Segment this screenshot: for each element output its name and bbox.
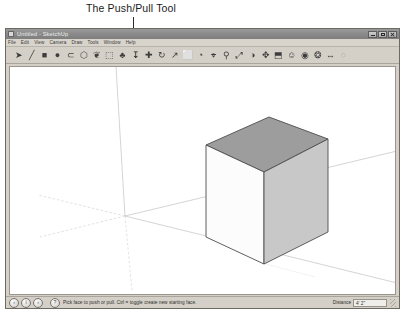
viewport-canvas [10, 67, 396, 291]
measurement-label: Distance [333, 300, 351, 305]
blue-axis-negative [125, 216, 132, 291]
paint-bucket-tool[interactable]: ♣ [116, 48, 129, 62]
blue-axis-line [116, 67, 125, 216]
rectangle-tool-icon: ■ [42, 51, 47, 60]
polygon-tool-icon: ⬡ [80, 51, 88, 60]
orbit-tool-icon: ◑ [250, 51, 255, 60]
freehand-tool[interactable]: ❦ [90, 48, 103, 62]
rectangle-tool[interactable]: ■ [38, 48, 51, 62]
info-icon[interactable]: i [21, 298, 31, 308]
window-title: Untitled - SketchUp [17, 31, 367, 37]
zoom-tool-icon: ⚲ [223, 51, 230, 60]
sketchup-window: Untitled - SketchUp File Edit View Camer… [5, 28, 400, 309]
zoom-tool[interactable]: ⚲ [220, 48, 233, 62]
text-tool-icon: ○ [341, 51, 346, 60]
follow-me-tool[interactable]: ↗ [168, 48, 181, 62]
question-mark-icon[interactable]: ? [50, 298, 60, 308]
annotation-label: The Push/Pull Tool [86, 2, 176, 14]
menu-item-view[interactable]: View [34, 40, 44, 45]
line-tool-icon: ╱ [29, 51, 34, 60]
menu-item-tools[interactable]: Tools [88, 40, 99, 45]
select-tool[interactable]: ➤ [12, 48, 25, 62]
section-plane-tool-icon: ⬒ [274, 51, 283, 60]
model-viewport[interactable] [9, 66, 396, 295]
polygon-tool[interactable]: ⬡ [77, 48, 90, 62]
move-tool-icon: ✚ [145, 51, 153, 60]
question-mark-glyph: ? [51, 299, 59, 306]
zoom-extents-tool-icon: ⤢ [236, 51, 243, 60]
pan-tool[interactable]: ✥ [259, 48, 272, 62]
dimension-tool[interactable]: ↔ [324, 48, 337, 62]
move-tool[interactable]: ✚ [142, 48, 155, 62]
drawing-area-wrapper [6, 64, 399, 296]
eraser-tool[interactable]: ⬚ [103, 48, 116, 62]
tape-measure-tool-icon: ⌖ [211, 51, 216, 60]
sketchup-app-icon [8, 31, 14, 37]
resize-grip[interactable] [390, 299, 396, 307]
forward-arrow-glyph: › [34, 299, 42, 306]
line-tool[interactable]: ╱ [25, 48, 38, 62]
position-camera-tool[interactable]: ❂ [311, 48, 324, 62]
main-toolbar: ➤ ╱ ■ ● ⊂ ⬡ ❦ ⬚ ♣ ↧ ✚ ↻ ↗ ⬜ ◔ ⌖ ⚲ ⤢ ◑ ✥ … [6, 47, 399, 64]
title-bar[interactable]: Untitled - SketchUp [6, 29, 399, 39]
minimize-button[interactable] [368, 31, 377, 38]
arc-tool[interactable]: ⊂ [64, 48, 77, 62]
position-camera-tool-icon: ❂ [314, 51, 322, 60]
select-tool-icon: ➤ [15, 51, 23, 60]
walk-tool[interactable]: ☺ [285, 48, 298, 62]
forward-arrow-icon[interactable]: › [33, 298, 43, 308]
text-tool[interactable]: ○ [337, 48, 350, 62]
back-arrow-glyph: ‹ [10, 299, 18, 306]
menu-item-file[interactable]: File [8, 40, 16, 45]
orbit-tool[interactable]: ◑ [246, 48, 259, 62]
look-around-tool[interactable]: ◉ [298, 48, 311, 62]
circle-tool[interactable]: ● [51, 48, 64, 62]
walk-tool-icon: ☺ [287, 51, 296, 60]
look-around-tool-icon: ◉ [301, 51, 309, 60]
circle-tool-icon: ● [55, 51, 60, 60]
offset-tool[interactable]: ◔ [194, 48, 207, 62]
rotate-tool[interactable]: ↻ [155, 48, 168, 62]
follow-me-tool-icon: ↗ [171, 51, 179, 60]
back-arrow-icon[interactable]: ‹ [9, 298, 19, 308]
arc-tool-icon: ⊂ [67, 51, 75, 60]
measurement-box: Distance 4' 2" [333, 299, 387, 307]
menu-item-window[interactable]: Window [104, 40, 121, 45]
eraser-tool-icon: ⬚ [105, 51, 114, 60]
close-button[interactable] [388, 31, 397, 38]
menu-item-draw[interactable]: Draw [71, 40, 82, 45]
red-axis-negative [38, 195, 125, 216]
section-plane-tool[interactable]: ⬒ [272, 48, 285, 62]
rotate-tool-icon: ↻ [158, 51, 166, 60]
scale-tool-icon: ⬜ [182, 51, 193, 60]
freehand-tool-icon: ❦ [93, 51, 101, 60]
menu-item-help[interactable]: Help [126, 40, 136, 45]
menu-item-camera[interactable]: Camera [49, 40, 66, 45]
tape-measure-tool[interactable]: ⌖ [207, 48, 220, 62]
paint-bucket-tool-icon: ♣ [120, 51, 126, 60]
measurement-input[interactable]: 4' 2" [353, 299, 387, 307]
zoom-extents-tool[interactable]: ⤢ [233, 48, 246, 62]
scale-tool[interactable]: ⬜ [181, 48, 194, 62]
green-axis-negative [40, 216, 125, 237]
status-bar: ‹ i › ? Pick face to push or pull. Ctrl … [6, 296, 399, 308]
dimension-tool-icon: ↔ [326, 51, 335, 60]
pan-tool-icon: ✥ [262, 51, 270, 60]
offset-tool-icon: ◔ [198, 51, 203, 60]
status-message: Pick face to push or pull. Ctrl = toggle… [63, 300, 329, 305]
push-pull-tool[interactable]: ↧ [129, 48, 142, 62]
info-glyph: i [22, 299, 30, 306]
ground-shadow-hint [262, 263, 315, 277]
maximize-button[interactable] [378, 31, 387, 38]
menu-item-edit[interactable]: Edit [21, 40, 29, 45]
push-pull-tool-icon: ↧ [132, 51, 140, 60]
menu-bar: File Edit View Camera Draw Tools Window … [6, 39, 399, 47]
